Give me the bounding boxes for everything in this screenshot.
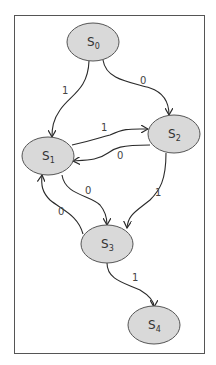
node-s0: S0 (67, 23, 119, 61)
edge-label-s0-s1: 1 (62, 85, 68, 96)
edge-s1-s2 (72, 129, 148, 145)
edge-label-s1-s2: 1 (101, 122, 107, 133)
edge-s3-s4 (107, 263, 154, 307)
node-s4: S4 (128, 306, 180, 344)
edge-label-s3-s1: 0 (58, 206, 64, 217)
edge-label-s0-s2: 0 (140, 75, 146, 86)
edge-label-s2-s3: 1 (155, 187, 161, 198)
edge-s0-s2 (103, 60, 169, 115)
edge-label-s2-s1: 0 (117, 150, 123, 161)
edge-s2-s1 (73, 145, 150, 161)
edge-label-s1-s3: 0 (85, 185, 91, 196)
edge-s3-s1 (42, 175, 83, 234)
node-s2: S2 (148, 115, 200, 153)
edge-s0-s1 (52, 61, 89, 137)
edge-label-s3-s4: 1 (132, 272, 138, 283)
node-s1: S1 (22, 137, 74, 175)
diagram-frame (15, 16, 205, 354)
node-s3: S3 (81, 225, 133, 263)
edge-s1-s3 (62, 175, 107, 225)
state-diagram: 1 0 1 0 0 1 0 1 S0 S1 S2 S3 S4 (0, 0, 216, 365)
